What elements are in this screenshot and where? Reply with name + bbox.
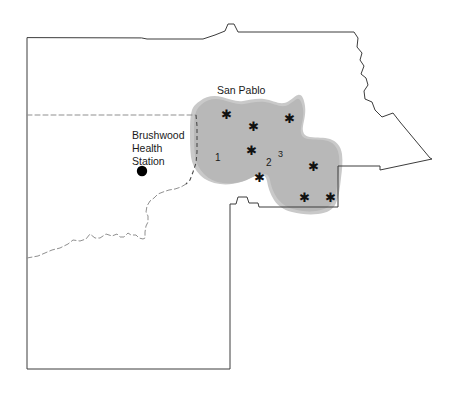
map-container: San Pablo Brushwood Health Station 1 2 3… [0,0,460,393]
star-marker-5: ✱ [308,159,319,174]
site-number-3: 3 [278,149,283,159]
star-marker-6: ✱ [254,170,265,185]
health-station-dot [137,166,147,176]
star-marker-3: ✱ [248,119,259,134]
star-marker-8: ✱ [325,190,336,205]
station-label-group: Brushwood Health Station [132,129,185,167]
star-marker-7: ✱ [299,190,310,205]
star-marker-1: ✱ [221,107,232,122]
station-label-line3: Station [132,155,165,167]
city-label-san-pablo: San Pablo [217,84,266,96]
map-canvas: San Pablo Brushwood Health Station 1 2 3… [0,0,460,393]
star-marker-2: ✱ [284,111,295,126]
station-label-line1: Brushwood [132,129,185,141]
internal-boundary-south [27,184,186,258]
shaded-region-group [190,95,342,215]
site-number-1: 1 [215,152,221,163]
site-number-2: 2 [266,157,272,168]
star-marker-4: ✱ [246,143,257,158]
station-label-line2: Health [132,142,163,154]
county-outline [27,24,432,369]
